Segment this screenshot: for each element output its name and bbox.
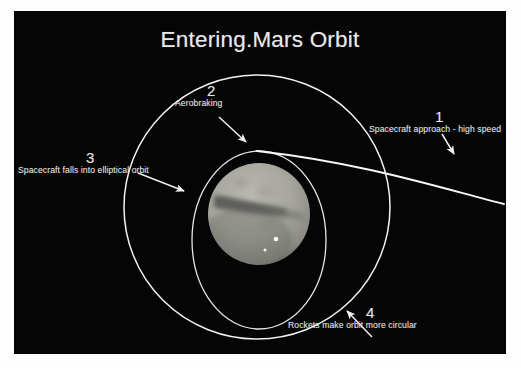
callout-2-caption: Aerobraking <box>175 98 222 109</box>
limb-shadow <box>200 207 292 275</box>
page-title: Entering.Mars Orbit <box>14 27 506 53</box>
callout-1-arrow <box>442 134 454 154</box>
slide-page: Entering.Mars Orbit 1 Spacecraft approac… <box>0 0 521 368</box>
callout-3-caption: Spacecraft falls into elliptical orbit <box>18 165 149 176</box>
bright-spot-lower <box>264 249 267 252</box>
callout-2-arrow <box>219 117 246 142</box>
callout-1: 1 Spacecraft approach - high speed <box>369 109 501 135</box>
callout-4: 4 Rockets make orbit more circular <box>288 305 417 331</box>
callout-1-caption: Spacecraft approach - high speed <box>369 124 501 135</box>
callout-1-number: 1 <box>435 109 501 124</box>
callout-3: 3 Spacecraft falls into elliptical orbit <box>18 150 149 176</box>
callout-4-caption: Rockets make orbit more circular <box>288 320 417 331</box>
slide-canvas: Entering.Mars Orbit 1 Spacecraft approac… <box>14 11 506 354</box>
callout-3-number: 3 <box>86 150 149 165</box>
surface-mottle-b <box>257 184 275 198</box>
bright-spot-upper <box>274 237 279 242</box>
orbit-diagram <box>14 11 506 354</box>
callout-2: 2 Aerobraking <box>175 83 222 109</box>
callout-2-number: 2 <box>207 83 222 98</box>
callout-4-number: 4 <box>366 305 417 320</box>
mars-planet <box>200 163 310 275</box>
surface-mottle-a <box>234 178 248 188</box>
